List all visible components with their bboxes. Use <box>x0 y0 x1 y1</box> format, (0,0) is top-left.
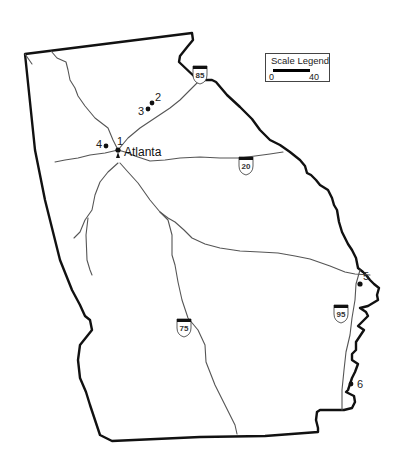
site-3-marker[interactable]: 3 <box>138 105 150 117</box>
georgia-map: 85 20 75 95 1 Atlanta 2 3 4 5 6 <box>0 0 403 452</box>
city-label-atlanta: Atlanta <box>124 145 162 159</box>
legend-title: Scale Legend <box>271 55 329 66</box>
svg-text:75: 75 <box>180 324 189 333</box>
scale-bar <box>273 69 310 72</box>
site-4-marker[interactable]: 4 <box>96 138 108 150</box>
road-southwest <box>74 163 118 238</box>
svg-text:1: 1 <box>117 135 123 147</box>
legend-min-label: 0 <box>269 72 274 82</box>
interstate-85-shield-icon: 85 <box>193 66 207 84</box>
road-north-atlanta <box>51 51 118 150</box>
road-i75 <box>160 212 237 434</box>
legend-max-label: 40 <box>309 72 319 82</box>
interstate-20-shield-icon: 20 <box>239 157 253 175</box>
svg-text:3: 3 <box>138 105 144 117</box>
scale-legend: Scale Legend 0 40 <box>265 53 330 82</box>
interstate-95-shield-icon: 95 <box>334 305 348 323</box>
road-i20-west <box>55 150 118 162</box>
interstate-75-shield-icon: 75 <box>177 319 191 337</box>
road-i85 <box>118 77 202 150</box>
svg-text:95: 95 <box>337 310 346 319</box>
svg-text:85: 85 <box>196 71 205 80</box>
svg-text:5: 5 <box>363 270 369 282</box>
state-border <box>25 33 379 441</box>
road-southwest-branch <box>86 218 92 275</box>
atlanta-triangle-icon <box>116 152 120 158</box>
road-southeast <box>120 163 370 275</box>
svg-text:6: 6 <box>357 378 363 390</box>
svg-text:2: 2 <box>155 91 161 103</box>
svg-text:20: 20 <box>242 162 251 171</box>
site-1-marker[interactable]: 1 <box>115 135 123 153</box>
site-2-marker[interactable]: 2 <box>150 91 162 105</box>
svg-text:4: 4 <box>96 138 102 150</box>
